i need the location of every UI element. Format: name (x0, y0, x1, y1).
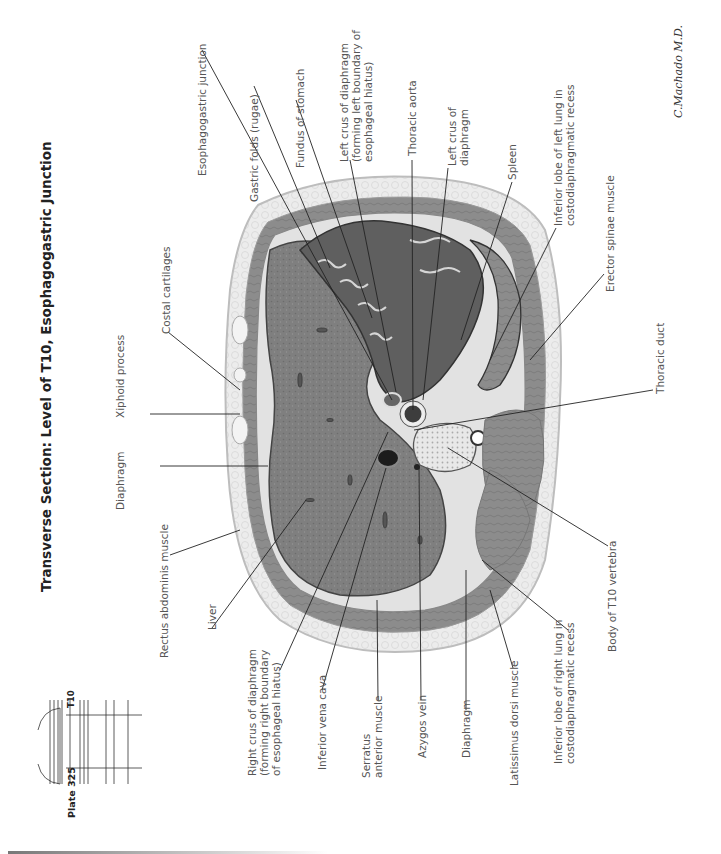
label-erector-spinae: Erector spinae muscle (604, 175, 616, 292)
label-body-t10-vertebra: Body of T10 vertebra (606, 541, 618, 652)
label-esophagogastric-junction: Esophagogastric junction (196, 43, 208, 176)
plate-thumbnail (38, 700, 142, 784)
label-thoracic-duct: Thoracic duct (654, 323, 666, 394)
t10-marker: T10 (66, 690, 76, 708)
label-inferior-lobe-left-lung: Inferior lobe of left lung in costodiaph… (552, 85, 576, 227)
label-left-crus-hiatus: Left crus of diaphragm (forming left bou… (338, 30, 374, 162)
ivc-shape (377, 449, 399, 467)
label-latissimus-dorsi: Latissimus dorsi muscle (508, 660, 520, 786)
label-fundus-of-stomach: Fundus of stomach (294, 69, 306, 168)
anatomical-plate: Transverse Section: Level of T10, Esopha… (0, 0, 721, 854)
label-diaphragm-lower: Diaphragm (460, 700, 472, 758)
label-left-crus: Left crus of diaphragm (446, 107, 470, 166)
artist-signature: C.Machado M.D. (672, 25, 685, 118)
plate-label: Plate 325 (66, 767, 77, 818)
figure-title: Transverse Section: Level of T10, Esopha… (38, 141, 54, 592)
t10-vertebra-shape (413, 423, 476, 471)
label-xiphoid-process: Xiphoid process (114, 335, 126, 418)
label-costal-cartilages: Costal cartilages (160, 246, 172, 334)
label-inferior-vena-cava: Inferior vena cava (316, 675, 328, 770)
label-thoracic-aorta: Thoracic aorta (406, 80, 418, 156)
label-gastric-folds: Gastric folds (rugae) (248, 94, 260, 202)
label-right-crus-hiatus: Right crus of diaphragm (forming right b… (246, 649, 282, 776)
label-serratus-anterior: Serratus anterior muscle (360, 696, 384, 778)
label-inferior-lobe-right-lung: Inferior lobe of right lung in costodiap… (552, 620, 576, 764)
label-diaphragm-upper: Diaphragm (114, 452, 126, 510)
label-rectus-abdominis: Rectus abdominis muscle (158, 524, 170, 658)
label-azygos-vein: Azygos vein (416, 695, 428, 758)
label-liver: Liver (206, 604, 218, 630)
label-spleen: Spleen (506, 144, 518, 180)
